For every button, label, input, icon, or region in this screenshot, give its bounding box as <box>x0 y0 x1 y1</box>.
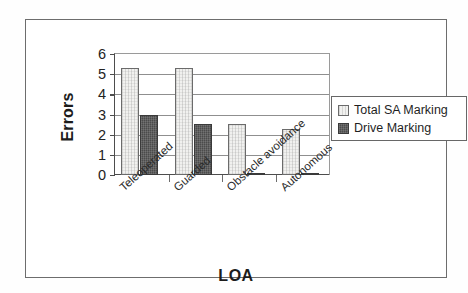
x-axis-tick <box>222 175 223 182</box>
legend-item-total-sa-marking: Total SA Marking <box>338 101 461 119</box>
legend-swatch-icon-drive-marking <box>338 123 349 134</box>
y-axis-tick-label: 2 <box>98 127 106 142</box>
y-axis-tick-label: 5 <box>98 67 106 82</box>
x-axis-tick <box>169 175 170 182</box>
y-axis-tick-label: 1 <box>98 148 106 163</box>
legend-label-drive-marking: Drive Marking <box>354 122 431 135</box>
legend-item-drive-marking: Drive Marking <box>338 119 461 137</box>
bar <box>175 68 193 175</box>
legend-label-total-sa-marking: Total SA Marking <box>354 104 448 117</box>
x-axis-category-labels: TeleoperatedGuardedObstacle avoidanceAut… <box>114 183 414 273</box>
y-axis-title-label: Errors <box>59 92 77 141</box>
legend: Total SA Marking Drive Marking <box>331 96 467 141</box>
y-axis-title: Errors <box>57 72 79 162</box>
y-axis-tick-label: 0 <box>98 168 106 183</box>
y-axis-tick-label: 4 <box>98 87 106 102</box>
x-axis-title: LOA <box>176 267 296 285</box>
y-axis-tick-label: 6 <box>98 47 106 62</box>
x-axis-tick <box>276 175 277 182</box>
legend-swatch-icon-total-sa-marking <box>338 105 349 116</box>
figure-container: Errors 0123456 TeleoperatedGuardedObstac… <box>0 0 468 293</box>
y-axis-tick-label: 3 <box>98 107 106 122</box>
figure-border: Errors 0123456 TeleoperatedGuardedObstac… <box>25 19 447 278</box>
bar <box>121 68 139 175</box>
